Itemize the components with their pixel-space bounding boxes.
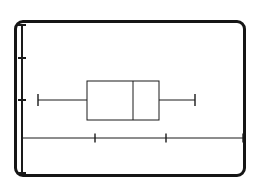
x-axis-group (22, 134, 243, 143)
box-whisker-group (38, 81, 195, 120)
y-axis-group (18, 25, 26, 173)
box-plot-canvas (0, 0, 256, 188)
interquartile-box (87, 81, 159, 120)
box-plot-svg (0, 0, 256, 188)
figure-root (0, 0, 256, 188)
